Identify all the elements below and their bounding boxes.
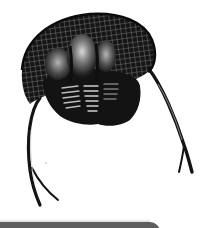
speck [45, 162, 47, 164]
image-canvas: Black-and-white engraving of a trilobite… [0, 0, 207, 228]
trilobite-illustration [0, 0, 207, 228]
bottom-bar [0, 222, 160, 228]
left-spine [28, 98, 58, 205]
right-spine [148, 68, 192, 172]
